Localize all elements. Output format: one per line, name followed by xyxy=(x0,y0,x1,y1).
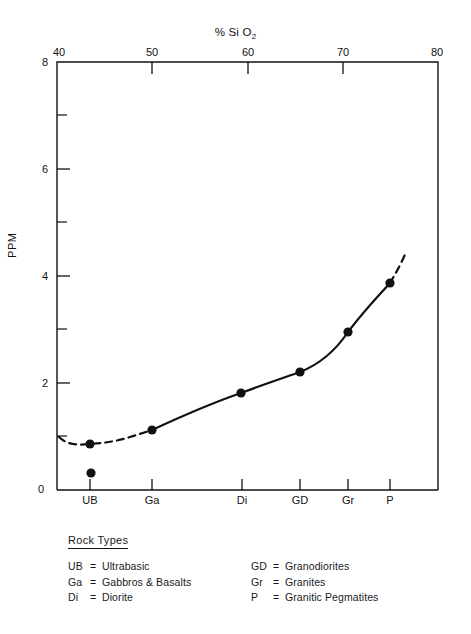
legend-eq-ga: = xyxy=(90,576,102,588)
trend-line-solid xyxy=(152,283,390,430)
data-point-gd xyxy=(295,367,304,376)
legend-key-p: P xyxy=(251,591,273,603)
legend-entry-ga: Ga = Gabbros & Basalts xyxy=(68,576,251,588)
legend-eq-di: = xyxy=(90,591,102,603)
data-point-ub-outlier xyxy=(86,468,95,477)
legend-eq-gr: = xyxy=(273,576,285,588)
legend-entry-gr: Gr = Granites xyxy=(251,576,428,588)
legend-entry-p: P = Granitic Pegmatites xyxy=(251,591,428,603)
legend-eq-gd: = xyxy=(273,560,285,572)
legend-entry-ub: UB = Ultrabasic xyxy=(68,560,251,572)
legend-value-gr: Granites xyxy=(285,576,325,588)
legend-column-left: UB = Ultrabasic Ga = Gabbros & Basalts D… xyxy=(68,560,251,603)
data-point-ub xyxy=(85,439,94,448)
trend-line-dashed-left xyxy=(59,430,152,445)
legend-eq-p: = xyxy=(273,591,285,603)
legend-key-gd: GD xyxy=(251,560,273,572)
legend-value-ga: Gabbros & Basalts xyxy=(102,576,191,588)
legend-columns: UB = Ultrabasic Ga = Gabbros & Basalts D… xyxy=(68,560,428,603)
legend-key-gr: Gr xyxy=(251,576,273,588)
legend-key-ga: Ga xyxy=(68,576,90,588)
legend-entry-gd: GD = Granodiorites xyxy=(251,560,428,572)
legend-value-ub: Ultrabasic xyxy=(102,560,150,572)
trend-line-dashed-right xyxy=(390,252,406,283)
legend-key-di: Di xyxy=(68,591,90,603)
legend-title: Rock Types xyxy=(68,534,128,549)
legend-value-di: Diorite xyxy=(102,591,133,603)
legend-key-ub: UB xyxy=(68,560,90,572)
legend: Rock Types UB = Ultrabasic Ga = Gabbros … xyxy=(68,530,428,603)
data-point-di xyxy=(236,388,245,397)
legend-entry-di: Di = Diorite xyxy=(68,591,251,603)
legend-value-p: Granitic Pegmatites xyxy=(285,591,379,603)
legend-eq-ub: = xyxy=(90,560,102,572)
y-axis-major-ticks xyxy=(57,169,70,383)
x-axis-ticks-bottom xyxy=(90,479,390,490)
data-point-gr xyxy=(343,327,352,336)
x-axis-ticks-top xyxy=(152,62,343,74)
chart-figure: % Si O2 PPM 40 50 60 70 80 8 6 4 2 0 UB … xyxy=(0,0,471,634)
legend-value-gd: Granodiorites xyxy=(285,560,349,572)
data-point-ga xyxy=(147,425,156,434)
axis-frame xyxy=(57,62,438,490)
data-point-p xyxy=(385,278,394,287)
legend-column-right: GD = Granodiorites Gr = Granites P = Gra… xyxy=(251,560,428,603)
data-point-markers xyxy=(85,278,394,477)
